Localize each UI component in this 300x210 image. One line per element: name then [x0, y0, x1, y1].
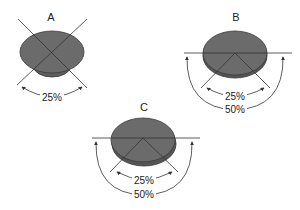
panel-a-arc-label-25: 25%	[42, 92, 62, 103]
panel-c-label: C	[140, 101, 148, 113]
panel-c-disc	[111, 118, 175, 162]
panel-b-arc-label-25: 25%	[225, 91, 245, 102]
panel-c-arc-label-25: 25%	[134, 175, 154, 186]
panel-b-arc-label-50: 50%	[225, 104, 245, 115]
panel-a: A 25%	[17, 11, 87, 103]
panel-c-arc-label-50: 50%	[134, 189, 154, 200]
panel-a-label: A	[47, 11, 55, 23]
panel-b-label: B	[232, 11, 239, 23]
panel-c: C 25% 50%	[92, 101, 200, 200]
diagram-canvas: A 25% B 25% 50% C	[0, 0, 300, 210]
panel-b: B 25% 50%	[184, 11, 292, 115]
